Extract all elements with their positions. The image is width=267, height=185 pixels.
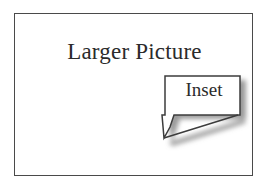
figure-root: Larger Picture Inset bbox=[0, 0, 267, 185]
inset-label: Inset bbox=[165, 80, 243, 99]
inset-callout-shape bbox=[145, 56, 250, 151]
inset-callout: Inset bbox=[145, 56, 250, 151]
